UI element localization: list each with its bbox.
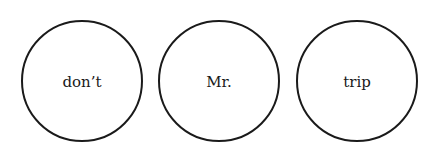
word-circle-3: trip — [296, 20, 418, 142]
word-label: don’t — [62, 73, 101, 91]
word-circle-1: don’t — [21, 20, 143, 142]
word-label: trip — [343, 73, 371, 91]
word-circle-2: Mr. — [158, 20, 280, 142]
word-label: Mr. — [206, 73, 232, 91]
